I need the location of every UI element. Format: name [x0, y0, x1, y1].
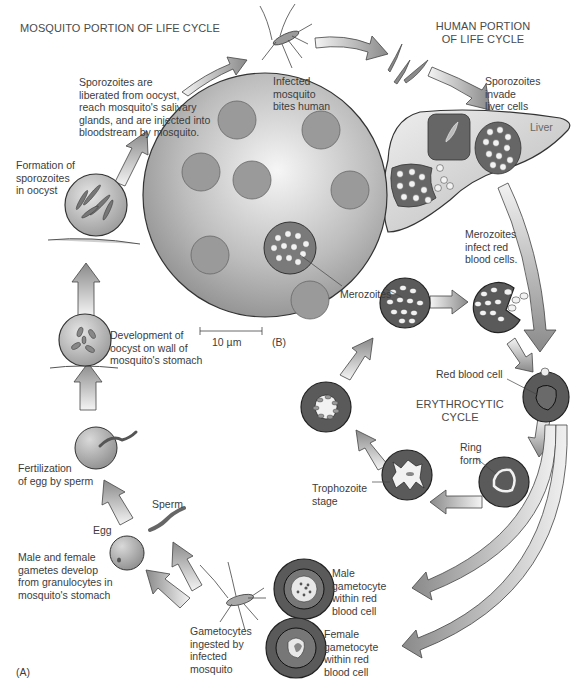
cycle-arrow	[430, 290, 468, 314]
sporozoites-invade-label: Sporozoites invade liver cells	[485, 75, 540, 113]
egg	[110, 536, 144, 570]
sporozoite-formation-label: Formation of sporozoites in oocyst	[16, 159, 75, 197]
male-gametocyte-label: Male gametocyte within red blood cell	[332, 567, 386, 617]
sporozoites-liberated-label: Sporozoites are liberated from oocyst, r…	[79, 76, 210, 139]
female-gametocyte-cell	[266, 618, 326, 678]
panel-label-b: (B)	[272, 336, 286, 349]
sperm	[150, 508, 184, 530]
merozoite-schizont	[380, 278, 430, 328]
cycle-arrow	[315, 36, 388, 60]
cycle-arrow	[74, 363, 102, 410]
oocyst-development-label: Development of oocyst on wall of mosquit…	[110, 329, 202, 367]
ring-form-label: Ring form	[460, 441, 482, 466]
sperm-label: Sperm	[152, 498, 183, 511]
egg-label: Egg	[93, 524, 112, 537]
early-schizont-cell	[301, 382, 351, 432]
human-portion-header: HUMAN PORTION OF LIFE CYCLE	[428, 20, 538, 46]
gametes-develop-label: Male and female gametes develop from gra…	[18, 551, 113, 601]
panel-label-a: (A)	[16, 666, 30, 679]
cycle-arrow	[507, 338, 533, 372]
developing-oocyst	[50, 314, 118, 368]
male-gametocyte-cell	[274, 559, 334, 619]
cycle-arrow	[430, 490, 482, 514]
mosquito-icon	[200, 562, 266, 630]
fertilization-label: Fertilization of egg by sperm	[18, 462, 93, 487]
cycle-arrow	[115, 131, 148, 186]
cycle-arrow	[356, 430, 388, 470]
female-gametocyte-label: Female gametocyte within red blood cell	[324, 628, 378, 678]
cycle-arrow	[340, 338, 373, 380]
bursting-red-blood-cell	[473, 282, 528, 332]
cycle-arrow	[146, 542, 202, 608]
merozoites-label: Merozoites	[340, 288, 391, 301]
erythrocytic-cycle-header: ERYTHROCYTIC CYCLE	[410, 398, 510, 424]
red-blood-cell-label: Red blood cell	[436, 368, 503, 381]
mosquito-icon	[260, 4, 312, 68]
cycle-arrow	[428, 67, 490, 110]
ring-form-cell	[476, 457, 529, 507]
scale-bar	[200, 327, 262, 335]
sporozoites-icon	[388, 44, 428, 84]
infected-mosquito-label: Infected mosquito bites human	[273, 75, 330, 113]
liver-label: Liver	[530, 121, 553, 134]
mosquito-portion-header: MOSQUITO PORTION OF LIFE CYCLE	[20, 22, 220, 35]
scale-bar-label: 10 µm	[212, 336, 241, 349]
merozoites-infect-label: Merozoites infect red blood cells.	[465, 228, 518, 266]
trophozoite-stage-label: Trophozoite stage	[312, 482, 367, 507]
cycle-arrow	[72, 263, 100, 316]
gametocytes-ingested-label: Gametocytes ingested by infected mosquit…	[190, 625, 252, 675]
red-blood-cell	[507, 368, 569, 422]
cycle-arrow	[102, 480, 133, 525]
